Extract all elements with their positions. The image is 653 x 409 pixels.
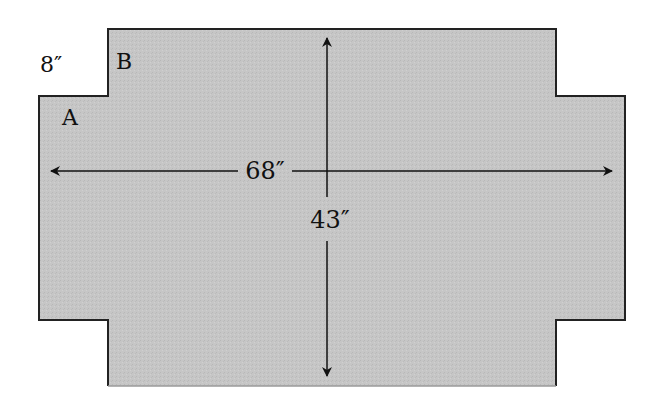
corner-a-label: A	[61, 105, 79, 130]
notch-size-label: 8″	[40, 52, 62, 77]
dimension-diagram: 8″ B A 68″ 43″	[0, 0, 653, 409]
width-label: 68″	[245, 157, 285, 185]
corner-b-label: B	[116, 49, 132, 74]
height-label: 43″	[310, 206, 350, 234]
